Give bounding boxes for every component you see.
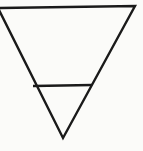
triangle-diagram: [0, 0, 143, 151]
horizontal-crossbar: [33, 85, 92, 86]
figure-container: Inverted triangle with horizontal crossb…: [0, 0, 143, 151]
diagram-background: [0, 0, 143, 151]
